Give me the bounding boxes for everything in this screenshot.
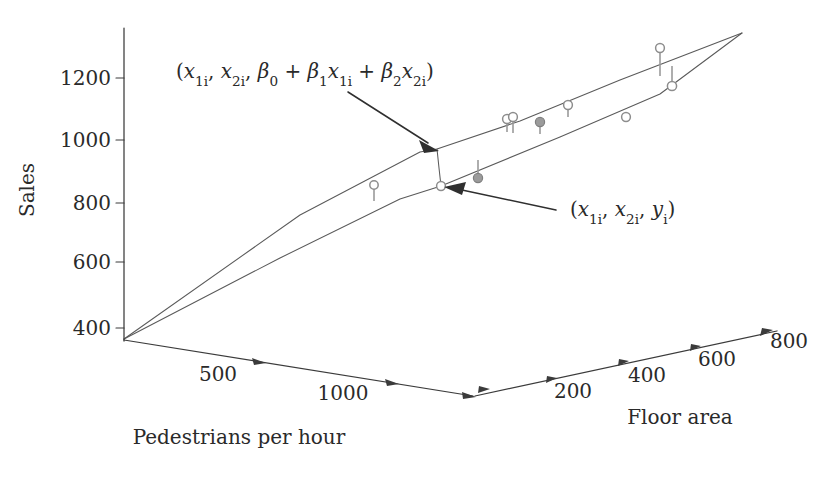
sales-axis-title: Sales <box>15 163 39 217</box>
sales-axis-group: 1200 1000 800 600 400 Sales <box>15 28 124 341</box>
sales-tick-label-600: 600 <box>73 250 111 274</box>
data-points-group <box>370 44 677 201</box>
pedestrians-axis-title: Pedestrians per hour <box>133 425 346 449</box>
pedestrians-tick-label-500: 500 <box>199 362 237 386</box>
data-point-observed <box>437 182 446 191</box>
fitted-value-arrowhead <box>419 140 439 153</box>
pedestrians-axis-line <box>124 340 473 396</box>
floor-area-tick-label-400: 400 <box>628 363 666 387</box>
floor-area-axis-title: Floor area <box>627 405 733 429</box>
floor-area-axis-group: 200 400 600 800 Floor area <box>475 328 808 429</box>
pedestrians-tick-1000 <box>385 379 399 386</box>
data-point <box>473 160 482 183</box>
floor-area-tick-label-800: 800 <box>770 329 808 353</box>
annotation-observed-value: (x1i, x2i, yi) <box>570 197 675 227</box>
annotation-fitted-value: (x1i, x2i, β0 + β1x1i + β2x2i) <box>176 59 434 89</box>
fitted-value-leader <box>348 92 428 143</box>
plot-canvas: 1200 1000 800 600 400 Sales 500 1000 Ped… <box>0 0 837 480</box>
floor-area-tick-label-200: 200 <box>554 379 592 403</box>
sales-tick-label-800: 800 <box>73 191 111 215</box>
data-point <box>535 117 544 134</box>
observed-value-leader <box>462 190 556 210</box>
data-point <box>656 44 665 76</box>
floor-area-tick-label-600: 600 <box>698 347 736 371</box>
floor-area-axis-start-arrow <box>478 386 490 393</box>
sales-tick-label-1200: 1200 <box>60 66 111 90</box>
pedestrians-axis-group: 500 1000 Pedestrians per hour <box>124 340 476 449</box>
data-point <box>622 113 631 122</box>
pedestrians-tick-label-1000: 1000 <box>318 381 369 405</box>
pedestrians-axis-end-arrow <box>462 392 476 399</box>
plane-riser <box>437 149 441 186</box>
regression-plot-figure: 1200 1000 800 600 400 Sales 500 1000 Ped… <box>0 0 837 480</box>
sales-tick-label-400: 400 <box>73 316 111 340</box>
sales-tick-label-1000: 1000 <box>60 128 111 152</box>
data-point <box>564 101 573 117</box>
data-point <box>667 66 676 91</box>
pedestrians-tick-500 <box>252 358 266 365</box>
data-point <box>370 181 378 201</box>
